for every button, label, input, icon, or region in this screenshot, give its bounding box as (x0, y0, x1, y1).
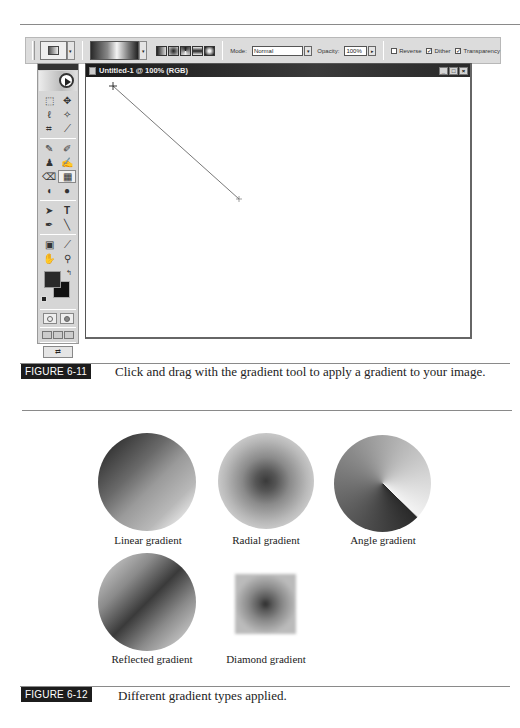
document-titlebar[interactable]: Untitled-1 @ 100% (RGB) _ □ × (86, 64, 470, 77)
gradient-tool-icon[interactable]: ▦ (58, 170, 76, 183)
notes-tool-icon[interactable]: ▣ (40, 238, 58, 251)
tool-preset-picker[interactable] (40, 41, 67, 60)
eyedropper-tool-icon[interactable]: ⟋ (58, 238, 76, 251)
toolbox-divider (40, 200, 76, 201)
hand-tool-icon[interactable]: ✋ (40, 252, 58, 265)
diamond-gradient-label: Diamond gradient (212, 653, 320, 665)
gradient-drag-line (86, 77, 471, 338)
toolbox: ⬚ ✥ ℓ ✧ ⌗ ⟋ ✎ ✐ ♟ ✍ ⌫ ▦ ◖ ● ➤ T ✒ ╲ ▣ ⟋ … (37, 63, 79, 344)
standard-screen-mode-button[interactable] (42, 331, 52, 339)
dodge-tool-icon[interactable]: ● (58, 184, 76, 197)
standard-mode-button[interactable] (43, 313, 57, 324)
mask-mode-row (38, 313, 78, 324)
toolbox-divider (40, 309, 76, 310)
image-canvas[interactable] (86, 77, 470, 337)
tool-preset-dropdown[interactable]: ▾ (67, 41, 75, 60)
radial-gradient-sample (218, 433, 314, 529)
pen-tool-icon[interactable]: ✒ (40, 218, 58, 231)
dither-checkbox[interactable]: ✓ Dither (426, 48, 450, 54)
reverse-checkbox-box[interactable] (391, 48, 397, 54)
foreground-color-swatch[interactable] (44, 271, 61, 288)
photoshop-logo[interactable] (39, 71, 77, 91)
blur-tool-icon[interactable]: ◖ (40, 184, 58, 197)
toolbox-divider (40, 342, 76, 343)
screen-mode-row (38, 331, 78, 339)
separator (383, 41, 384, 60)
document-icon (89, 67, 96, 75)
reflected-gradient-label: Reflected gradient (98, 653, 206, 665)
gradient-type-buttons (156, 46, 215, 56)
figure-12-rule (20, 686, 510, 687)
healing-brush-tool-icon[interactable]: ✎ (40, 142, 58, 155)
mode-select[interactable]: Normal (252, 46, 304, 56)
separator (82, 41, 83, 60)
reverse-checkbox[interactable]: Reverse (391, 48, 421, 54)
angle-gradient-button[interactable] (180, 46, 191, 56)
figure-12-caption: Different gradient types applied. (118, 688, 287, 704)
clone-stamp-tool-icon[interactable]: ♟ (40, 156, 58, 169)
transparency-label: Transparency (463, 48, 499, 54)
default-colors-icon[interactable] (41, 296, 47, 302)
tool-preset-icon (48, 46, 59, 55)
eye-icon (59, 73, 74, 88)
linear-gradient-button[interactable] (156, 46, 167, 56)
move-tool-icon[interactable]: ✥ (58, 94, 76, 107)
radial-gradient-button[interactable] (168, 46, 179, 56)
zoom-tool-icon[interactable]: ⚲ (58, 252, 76, 265)
slice-tool-icon[interactable]: ⟋ (58, 122, 76, 135)
opacity-label: Opacity: (317, 48, 339, 54)
line-tool-icon[interactable]: ╲ (58, 218, 76, 231)
opacity-slider-button[interactable]: ▸ (368, 46, 376, 56)
brush-tool-icon[interactable]: ✐ (58, 142, 76, 155)
figure-11-caption: Click and drag with the gradient tool to… (115, 364, 485, 380)
radial-gradient-label: Radial gradient (216, 534, 316, 546)
diamond-gradient-sample (235, 574, 296, 634)
angle-gradient-sample (334, 435, 431, 532)
transparency-checkbox[interactable]: ✓ Transparency (455, 48, 499, 54)
figure-12-label: FIGURE 6-12 (21, 687, 92, 702)
type-tool-icon[interactable]: T (58, 204, 76, 217)
maximize-button[interactable]: □ (449, 67, 458, 75)
gradient-picker[interactable] (90, 41, 140, 60)
gradient-picker-dropdown[interactable]: ▾ (139, 41, 147, 60)
tool-grid-1: ⬚ ✥ ℓ ✧ ⌗ ⟋ (38, 94, 78, 135)
minimize-button[interactable]: _ (439, 67, 448, 75)
jump-to-imageready-button[interactable]: ⇄ (43, 346, 73, 358)
separator (222, 41, 223, 60)
swap-colors-icon[interactable]: ↰ (66, 269, 72, 277)
eraser-tool-icon[interactable]: ⌫ (40, 170, 58, 183)
reflected-gradient-sample (98, 553, 196, 651)
figure-12-top-rule (22, 410, 512, 411)
tool-grid-2: ✎ ✐ ♟ ✍ ⌫ ▦ ◖ ● (38, 142, 78, 197)
dither-label: Dither (434, 48, 450, 54)
document-title: Untitled-1 @ 100% (RGB) (99, 66, 439, 75)
full-screen-menu-mode-button[interactable] (53, 331, 63, 339)
toolbox-titlebar[interactable] (38, 64, 78, 70)
close-button[interactable]: × (459, 67, 468, 75)
reflected-gradient-button[interactable] (192, 46, 203, 56)
toolbox-divider (40, 234, 76, 235)
marquee-tool-icon[interactable]: ⬚ (40, 94, 58, 107)
tool-grid-4: ▣ ⟋ ✋ ⚲ (38, 238, 78, 265)
window-controls: _ □ × (439, 67, 468, 75)
quick-mask-mode-button[interactable] (60, 313, 74, 324)
options-bar-grip[interactable] (32, 41, 35, 60)
angle-gradient-label: Angle gradient (332, 534, 434, 546)
dither-checkbox-box[interactable]: ✓ (426, 48, 432, 54)
magic-wand-tool-icon[interactable]: ✧ (58, 108, 76, 121)
history-brush-tool-icon[interactable]: ✍ (58, 156, 76, 169)
mode-label: Mode: (230, 48, 247, 54)
crop-tool-icon[interactable]: ⌗ (40, 122, 58, 135)
color-swatches: ↰ (41, 269, 75, 305)
diamond-gradient-button[interactable] (204, 46, 215, 56)
figure-11-label: FIGURE 6-11 (21, 364, 91, 379)
linear-gradient-sample (98, 433, 196, 531)
mode-dropdown-arrow[interactable]: ▾ (304, 46, 312, 56)
full-screen-mode-button[interactable] (64, 331, 74, 339)
transparency-checkbox-box[interactable]: ✓ (455, 48, 461, 54)
opacity-input[interactable]: 100% (344, 46, 367, 56)
path-selection-tool-icon[interactable]: ➤ (40, 204, 58, 217)
lasso-tool-icon[interactable]: ℓ (40, 108, 58, 121)
document-window: Untitled-1 @ 100% (RGB) _ □ × (85, 63, 472, 339)
gradient-options-bar: ▾ ▾ Mode: Normal ▾ Opacity: 100% ▸ Rever… (25, 37, 501, 64)
